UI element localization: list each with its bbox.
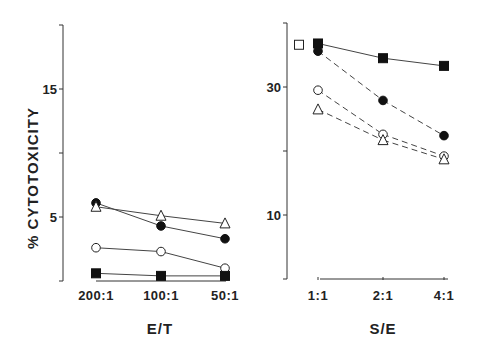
x-tick-label: 2:1 — [373, 288, 393, 303]
filled-circle-marker — [440, 131, 449, 140]
right-y-ticks: 1030 — [267, 23, 287, 279]
filled-circle-marker — [221, 234, 230, 243]
filled-square-marker — [157, 271, 166, 280]
left-series-group — [91, 199, 230, 281]
left-x-axis-title: E/T — [147, 320, 173, 337]
open-circle-marker — [92, 243, 101, 252]
series-line-segment — [96, 273, 161, 276]
filled-square-marker — [440, 61, 449, 70]
filled-square-marker — [379, 54, 388, 63]
x-tick-label: 50:1 — [211, 288, 239, 303]
left-y-axis-title: % CYTOTOXICITY — [24, 107, 41, 249]
series-line-segment — [318, 90, 383, 134]
series-line-segment — [161, 216, 225, 224]
series-line-segment — [161, 252, 225, 269]
y-tick-label: 15 — [43, 82, 57, 97]
series-line-segment — [383, 100, 444, 135]
series-filled-square — [92, 269, 230, 281]
left-y-ticks: 515 — [43, 25, 63, 281]
filled-circle-marker — [314, 47, 323, 56]
x-tick-label: 100:1 — [143, 288, 179, 303]
right-series-group — [295, 39, 450, 164]
filled-circle-marker — [157, 222, 166, 231]
series-line-segment — [318, 43, 383, 58]
series-line-segment — [96, 248, 161, 252]
series-filled-square — [314, 39, 449, 70]
series-line-segment — [383, 134, 444, 156]
left-x-tick-labels: 200:1100:150:1 — [78, 288, 239, 303]
series-filled-circle — [92, 199, 230, 243]
control-open-square-marker — [295, 40, 304, 49]
y-tick-label: 10 — [267, 208, 281, 223]
open-circle-marker — [314, 86, 323, 95]
right-panel: 1030 1:12:14:1 S/E — [267, 23, 455, 337]
filled-square-marker — [221, 271, 230, 280]
series-line-segment — [318, 51, 383, 100]
series-open-circle — [92, 243, 230, 272]
filled-square-marker — [92, 269, 101, 278]
filled-circle-marker — [379, 96, 388, 105]
series-line-segment — [383, 58, 444, 66]
right-x-axis-title: S/E — [369, 320, 396, 337]
x-tick-label: 200:1 — [78, 288, 114, 303]
series-line-segment — [318, 109, 383, 140]
left-panel: 515 200:1100:150:1 % CYTOTOXICITY E/T — [24, 25, 239, 337]
x-tick-label: 4:1 — [434, 288, 454, 303]
y-tick-label: 30 — [267, 80, 281, 95]
right-x-tick-labels: 1:12:14:1 — [308, 277, 454, 303]
series-line-segment — [161, 226, 225, 239]
open-circle-marker — [157, 247, 166, 256]
open-triangle-marker — [313, 104, 323, 114]
series-line-segment — [383, 140, 444, 159]
cytotoxicity-figure: 515 200:1100:150:1 % CYTOTOXICITY E/T 10… — [0, 0, 481, 352]
x-tick-label: 1:1 — [308, 288, 328, 303]
y-tick-label: 5 — [50, 210, 57, 225]
